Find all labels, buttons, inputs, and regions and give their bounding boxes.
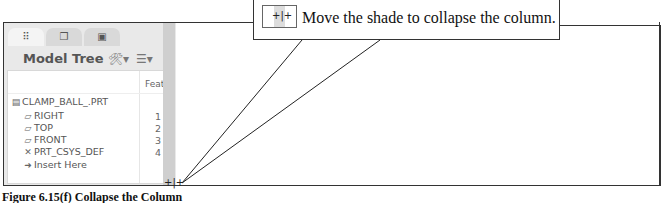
figure-caption: Figure 6.15(f) Collapse the Column: [2, 190, 182, 203]
callout-pointer-lines: [0, 0, 663, 203]
